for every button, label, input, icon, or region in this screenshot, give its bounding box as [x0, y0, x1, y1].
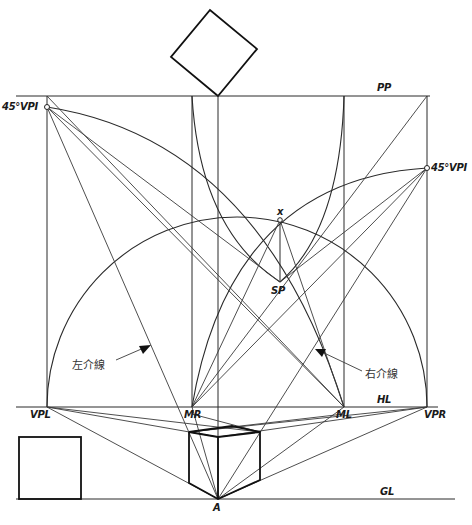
x-point — [278, 218, 283, 223]
elevation-square — [19, 437, 81, 499]
x-to-mr — [192, 220, 280, 407]
vpi-right-ray — [192, 96, 427, 407]
vpi-left-point — [45, 105, 50, 110]
mr-measuring-arc — [192, 96, 280, 282]
label-x: x — [277, 206, 283, 217]
label-pp: PP — [377, 82, 391, 93]
vpi-right-to-sp — [280, 168, 427, 282]
annotation-right-diagonal: 右介線 — [365, 365, 398, 381]
mr-to-a — [192, 407, 218, 499]
label-mr: MR — [184, 409, 201, 420]
label-gl: GL — [380, 486, 394, 497]
label-vpi-left: 45°VPI — [2, 101, 38, 112]
plan-square — [171, 10, 257, 96]
label-sp: SP — [271, 285, 285, 296]
label-vpl: VPL — [30, 409, 51, 420]
label-ml: ML — [336, 409, 352, 420]
vpi-right-point — [425, 166, 430, 171]
annotation-left-diagonal: 左介線 — [72, 356, 105, 372]
vpi-left-to-sp — [47, 107, 280, 282]
perspective-diagram — [0, 0, 472, 525]
label-a: A — [213, 502, 220, 513]
label-vpi-right: 45°VPI — [431, 162, 467, 173]
label-vpr: VPR — [424, 409, 446, 420]
left-annotation-arrowhead — [139, 345, 151, 354]
label-hl: HL — [377, 394, 391, 405]
ml-to-a — [218, 407, 344, 499]
